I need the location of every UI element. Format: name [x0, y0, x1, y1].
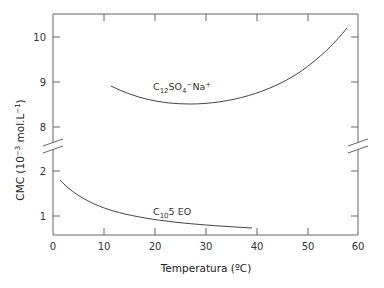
series-label-c105eo: C105 EO — [153, 206, 191, 220]
series-line-c12so4na — [111, 28, 347, 104]
x-tick-labels: 0 10 20 30 40 50 60 — [50, 241, 365, 252]
x-tick-label: 50 — [302, 241, 315, 252]
x-tick-label: 20 — [149, 241, 162, 252]
x-axis-title: Temperatura (ºC) — [160, 262, 252, 274]
x-tick-label: 40 — [251, 241, 264, 252]
y-tick-label: 2 — [40, 166, 46, 177]
y-tick-label: 8 — [40, 122, 46, 133]
cmc-chart: 0 10 20 30 40 50 60 10 9 8 2 1 Temperatu… — [0, 0, 384, 288]
y-tick-label: 1 — [40, 211, 46, 222]
x-tick-label: 10 — [98, 241, 111, 252]
x-ticks — [104, 14, 308, 235]
series-line-c105eo — [60, 180, 252, 228]
y-ticks — [53, 37, 358, 216]
series-label-c12so4na: C12SO4−Na+ — [153, 81, 211, 95]
y-tick-label: 9 — [40, 77, 46, 88]
plot-frame — [43, 14, 368, 235]
y-tick-labels: 10 9 8 2 1 — [33, 32, 46, 222]
x-tick-label: 60 — [352, 241, 365, 252]
x-tick-label: 30 — [200, 241, 213, 252]
x-tick-label: 0 — [50, 241, 56, 252]
y-axis-title: CMC (10−3 mol.L−1) — [14, 99, 26, 200]
y-tick-label: 10 — [33, 32, 46, 43]
